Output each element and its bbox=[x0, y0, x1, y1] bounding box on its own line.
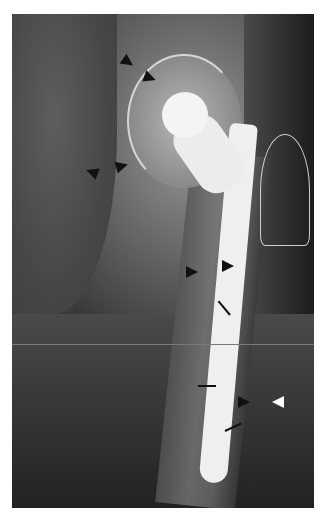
pelvis-region bbox=[12, 14, 117, 314]
xray-image bbox=[12, 14, 314, 508]
prosthesis-head bbox=[162, 92, 208, 138]
arrowhead-icon bbox=[186, 266, 198, 278]
arrowhead-icon bbox=[120, 54, 137, 71]
arrow-icon bbox=[198, 385, 216, 387]
scan-artifact-line bbox=[12, 344, 314, 345]
arrowhead-icon bbox=[115, 159, 130, 174]
cerclage-wire bbox=[260, 134, 310, 246]
arrowhead-icon bbox=[238, 396, 250, 408]
white-arrowhead-icon bbox=[272, 396, 284, 408]
arrowhead-icon bbox=[222, 260, 234, 272]
